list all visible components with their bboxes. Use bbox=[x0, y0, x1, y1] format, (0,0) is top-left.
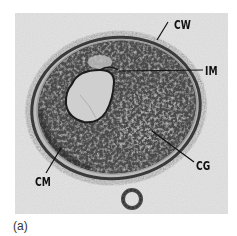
micrograph-image bbox=[0, 0, 237, 236]
label-im: IM bbox=[205, 64, 217, 77]
label-cw: CW bbox=[174, 18, 191, 31]
label-cg: CG bbox=[196, 159, 210, 172]
label-cm: CM bbox=[35, 175, 51, 188]
panel-label: (a) bbox=[13, 219, 28, 233]
figure: CW IM CG CM (a) bbox=[0, 0, 237, 236]
